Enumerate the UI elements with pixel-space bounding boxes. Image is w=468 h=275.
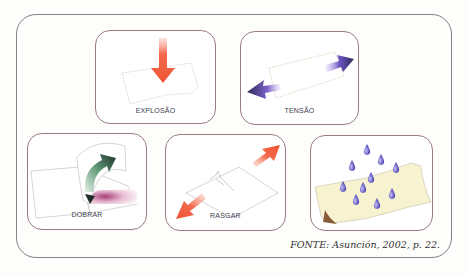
source-caption: FONTE: Asunción, 2002, p. 22. [290, 239, 440, 250]
panel-dobrar: DOBRAR [27, 133, 147, 230]
panel-tensao: TENSÃO [240, 31, 359, 125]
panel-label: TENSÃO [241, 107, 358, 114]
panel-explosao: EXPLOSÃO [95, 30, 216, 124]
paper-moisture-illustration [311, 136, 433, 231]
panel-umidade [310, 135, 433, 231]
up-right-arrow-icon [252, 145, 280, 167]
panel-rasgar: RASGAR [165, 134, 286, 231]
panel-label: RASGAR [166, 212, 285, 219]
panel-label: EXPLOSÃO [96, 107, 215, 114]
panel-label: DOBRAR [28, 211, 146, 218]
